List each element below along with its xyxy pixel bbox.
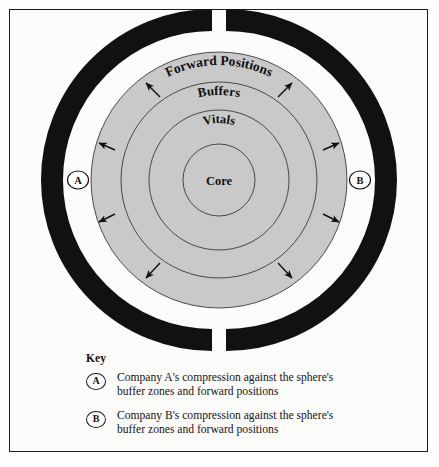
key-title: Key (86, 352, 396, 364)
key-text-b-line1: Company B's compression against the sphe… (117, 409, 333, 423)
key-badge-b: B (86, 411, 106, 428)
key-text-b-line2: buffer zones and forward positions (117, 423, 333, 437)
key-entry-b: B Company B's compression against the sp… (86, 409, 396, 436)
badge-a[interactable]: A (68, 171, 89, 189)
diagram-page: Forward Positions Buffers Vitals Core A (0, 0, 439, 467)
key-badge-a: A (86, 373, 106, 390)
key-text-a-line1: Company A's compression against the sphe… (117, 371, 333, 385)
badge-b-label: B (356, 175, 363, 186)
label-core: Core (206, 174, 233, 188)
label-buffers: Buffers (196, 83, 242, 100)
key-text-b: Company B's compression against the sphe… (117, 409, 333, 436)
key-entry-a: A Company A's compression against the sp… (86, 371, 396, 398)
key-text-a: Company A's compression against the sphe… (117, 371, 333, 398)
badge-b[interactable]: B (350, 171, 371, 189)
key-text-a-line2: buffer zones and forward positions (117, 385, 333, 399)
badge-a-label: A (74, 175, 82, 186)
key-legend: Key A Company A's compression against th… (86, 352, 396, 448)
